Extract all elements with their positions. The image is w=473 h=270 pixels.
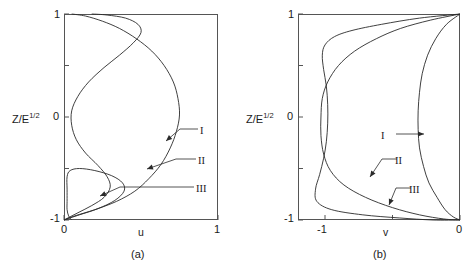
panel-a-curves	[64, 14, 180, 220]
figure-container: Z/E1/2 1 0 -1 0 1 u (a) I II III Z/E1/2 …	[0, 0, 473, 270]
panel-a-ticks	[64, 14, 218, 220]
panel-b-curve-II	[321, 14, 460, 220]
panel-a-curve-I	[64, 14, 180, 220]
panel-a-leader-II-arrowhead	[147, 165, 154, 170]
plot-overlay	[0, 0, 473, 270]
panel-b-leader-II-arrowhead	[370, 171, 376, 177]
annotation-leaders	[100, 129, 424, 205]
panel-b-curves	[315, 14, 460, 220]
panel-b-curve-I	[418, 14, 460, 220]
panel-a-leader-III-line	[100, 187, 194, 196]
panel-b-leader-I-arrowhead	[418, 131, 424, 136]
panel-b-ticks	[298, 14, 460, 220]
panel-b-curve-III	[315, 14, 460, 220]
panel-a-curve-III	[64, 169, 125, 221]
panel-a-curve-II	[64, 14, 141, 220]
panel-b-leader-III-line	[389, 188, 411, 205]
panel-b-leader-III-arrowhead	[389, 199, 394, 206]
panel-a-leader-II-line	[147, 159, 196, 169]
